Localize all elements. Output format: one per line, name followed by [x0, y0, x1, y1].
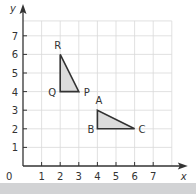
y-tick-label: 1	[12, 142, 18, 153]
y-axis-label: y	[9, 3, 17, 14]
y-tick-label: 3	[12, 105, 18, 116]
y-tick-label: 2	[12, 124, 18, 135]
x-tick-label: 3	[76, 171, 82, 182]
coordinate-grid: 123456712345670xyRQPABC	[0, 0, 196, 183]
vertex-label-q: Q	[48, 87, 56, 98]
vertex-label-a: A	[95, 95, 102, 106]
x-tick-label: 2	[57, 171, 63, 182]
x-tick-label: 4	[94, 171, 100, 182]
y-tick-label: 4	[12, 87, 18, 98]
origin-label: 0	[6, 171, 12, 182]
y-tick-label: 6	[12, 49, 18, 60]
vertex-label-c: C	[139, 124, 146, 135]
x-tick-label: 5	[113, 171, 119, 182]
vertex-label-p: P	[84, 87, 90, 98]
x-axis-label: x	[180, 171, 187, 182]
x-tick-label: 6	[131, 171, 137, 182]
vertex-label-b: B	[87, 124, 94, 135]
vertex-label-r: R	[54, 40, 61, 51]
x-tick-label: 1	[38, 171, 44, 182]
bottom-band	[0, 183, 196, 194]
y-tick-label: 7	[12, 31, 18, 42]
x-tick-label: 7	[150, 171, 156, 182]
y-tick-label: 5	[12, 68, 18, 79]
